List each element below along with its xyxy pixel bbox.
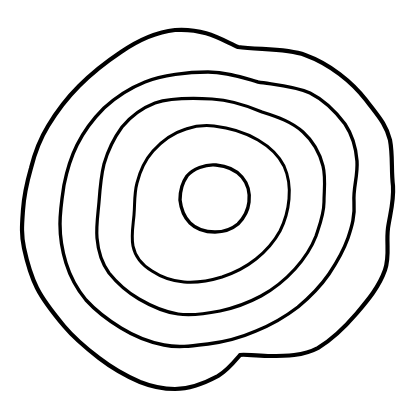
drawing-canvas: Nested Concentric Contour Rings: [0, 0, 413, 409]
contour-rings-illustration: Nested Concentric Contour Rings: [0, 0, 413, 409]
